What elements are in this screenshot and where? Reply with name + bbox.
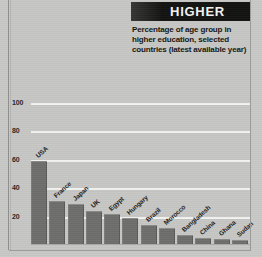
page-border-bottom [9, 250, 251, 251]
y-axis-tick-label: 40 [12, 184, 32, 192]
bar-slot: UK [86, 0, 102, 245]
scanned-page: 10080604020 USAFranceJapanUKEgyptHungary… [0, 0, 262, 257]
bar [49, 201, 65, 245]
bar-slot: France [49, 0, 65, 245]
bar [159, 228, 175, 245]
chart-title-banner: HIGHER [131, 2, 250, 21]
chart-title: HIGHER [156, 4, 225, 19]
chart-caption: Percentage of age group in higher educat… [132, 25, 250, 56]
y-axis-tick-label: 80 [12, 127, 32, 135]
page-border-left-inner [10, 0, 11, 250]
bar-category-label: Sudan [235, 220, 254, 238]
bar [68, 204, 84, 245]
bar [86, 211, 102, 245]
bar-category-label: USA [34, 145, 49, 159]
page-border-left [8, 0, 9, 250]
y-axis-tick-label: 60 [12, 156, 32, 164]
bar-category-label: UK [89, 198, 101, 209]
y-axis-tick-label: 100 [12, 99, 32, 107]
y-axis-tick-label: 20 [12, 213, 32, 221]
bar [104, 214, 120, 245]
bar [141, 225, 157, 245]
bar-slot: Japan [68, 0, 84, 245]
page-border-right [250, 0, 251, 251]
bar-slot: Egypt [104, 0, 120, 245]
bar [122, 218, 138, 245]
bar [31, 161, 47, 245]
bar-slot: USA [31, 0, 47, 245]
